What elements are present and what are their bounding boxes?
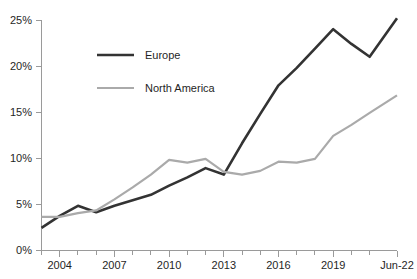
x-tick-label: 2019 [321, 259, 345, 271]
series-line-europe [42, 18, 398, 228]
x-tick-label: 2004 [47, 259, 71, 271]
line-chart: 0%5%10%15%20%25% 20042007201020132016201… [0, 0, 417, 279]
x-tick-label: 2016 [266, 259, 290, 271]
y-tick-label: 10% [10, 152, 32, 164]
y-tick-label: 20% [10, 60, 32, 72]
chart-canvas: 0%5%10%15%20%25% 20042007201020132016201… [0, 0, 417, 279]
y-axis-ticks [36, 21, 42, 251]
x-tick-label: 2007 [102, 259, 126, 271]
x-axis-ticks [42, 251, 398, 257]
y-tick-label: 25% [10, 14, 32, 26]
y-tick-label: 5% [16, 198, 32, 210]
y-axis: 0%5%10%15%20%25% [10, 14, 42, 256]
legend-label-north-america: North America [145, 82, 216, 94]
series-line-north-america [42, 95, 398, 216]
x-tick-label: 2013 [212, 259, 236, 271]
x-axis: 200420072010201320162019Jun-22 [42, 251, 414, 272]
y-tick-label: 15% [10, 106, 32, 118]
x-tick-label: 2010 [157, 259, 181, 271]
data-series-group [42, 18, 398, 228]
y-tick-label: 0% [16, 244, 32, 256]
x-axis-tick-labels: 200420072010201320162019Jun-22 [47, 259, 413, 271]
x-tick-label: Jun-22 [380, 259, 414, 271]
chart-legend: EuropeNorth America [97, 49, 216, 94]
legend-label-europe: Europe [145, 49, 180, 61]
y-axis-tick-labels: 0%5%10%15%20%25% [10, 14, 32, 256]
